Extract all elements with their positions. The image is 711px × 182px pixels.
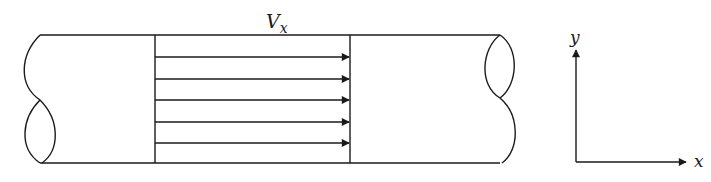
y-axis-label: y bbox=[569, 27, 580, 47]
coordinate-axes: y x bbox=[569, 27, 704, 171]
velocity-label: Vx bbox=[266, 10, 288, 36]
velocity-profile-arrows bbox=[155, 57, 349, 143]
pipe-left-break-end bbox=[24, 35, 55, 163]
velocity-label-subscript: x bbox=[280, 20, 288, 36]
pipe bbox=[24, 35, 515, 163]
pipe-right-break-end bbox=[485, 35, 515, 163]
pipe-flow-diagram: Vx y x bbox=[0, 0, 711, 182]
x-axis-label: x bbox=[694, 151, 704, 171]
